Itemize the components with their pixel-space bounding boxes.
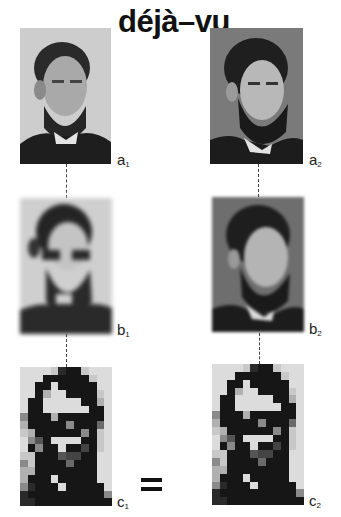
pixel-cell [296,372,304,380]
pixel-cell [289,403,297,411]
pixel-cell [281,466,289,474]
portrait-a1-image [20,28,111,164]
pixel-cell [227,427,235,435]
pixel-cell [220,435,228,443]
blurred-portrait-b1-image [20,198,112,334]
pixel-cell [20,413,28,421]
pixel-cell [281,388,289,396]
pixel-cell [43,367,51,375]
pixel-cell [243,466,251,474]
pixel-cell [81,437,89,445]
pixel-cell [20,491,28,499]
pixel-cell [51,367,59,375]
pixel-cell [66,375,74,383]
pixel-cell [258,442,266,450]
pixel-cell [66,491,74,499]
pixel-cell [220,380,228,388]
pixel-cell [296,364,304,372]
pixel-cell [212,364,220,372]
pixel-cell [273,497,281,505]
pixel-cell [104,437,112,445]
pixel-cell [250,458,258,466]
pixel-cell [104,375,112,383]
pixel-cell [281,395,289,403]
pixel-cell [97,467,105,475]
pixel-cell [20,498,28,506]
pixel-cell [20,467,28,475]
pixel-cell [243,442,251,450]
pixel-cell [89,382,97,390]
pixel-cell [212,395,220,403]
pixel-cell [235,482,243,490]
pixel-cell [227,435,235,443]
pixel-cell [227,458,235,466]
portrait-a2-image [210,28,303,164]
pixel-cell [89,375,97,383]
pixel-cell [212,466,220,474]
pixel-cell [35,460,43,468]
pixel-cell [227,364,235,372]
pixel-cell [35,367,43,375]
pixel-cell [97,406,105,414]
pixel-cell [104,475,112,483]
pixel-cell [20,437,28,445]
pixel-cell [43,475,51,483]
pixel-cell [74,452,82,460]
pixel-cell [281,489,289,497]
pixel-cell [28,491,36,499]
pixel-cell [20,475,28,483]
pixel-cell [227,403,235,411]
pixel-cell [258,474,266,482]
pixel-cell [58,498,66,506]
pixel-cell [266,427,274,435]
pixel-cell [43,444,51,452]
pixel-cell [74,437,82,445]
pixel-cell [35,382,43,390]
pixel-cell [289,419,297,427]
pixel-cell [250,380,258,388]
pixel-cell [281,403,289,411]
pixel-cell [20,398,28,406]
pixel-cell [104,390,112,398]
pixel-cell [35,498,43,506]
label-c1: c1 [117,494,129,514]
pixel-cell [220,466,228,474]
pixel-cell [35,452,43,460]
pixel-cell [43,452,51,460]
pixel-cell [235,380,243,388]
pixel-cell [289,411,297,419]
pixel-cell [66,382,74,390]
pixel-cell [97,444,105,452]
pixel-cell [74,483,82,491]
pixel-cell [35,491,43,499]
pixel-cell [74,460,82,468]
pixel-cell [97,375,105,383]
pixel-cell [250,419,258,427]
pixel-cell [266,450,274,458]
pixel-cell [104,498,112,506]
pixel-cell [243,458,251,466]
pixel-cell [266,435,274,443]
pixel-cell [74,467,82,475]
pixel-cell [220,388,228,396]
pixel-cell [243,380,251,388]
pixel-cell [220,442,228,450]
pixel-cell [281,435,289,443]
pixel-cell [81,421,89,429]
pixel-cell [296,497,304,505]
pixel-cell [97,498,105,506]
pixel-cell [227,466,235,474]
pixel-cell [35,375,43,383]
pixel-cell [235,489,243,497]
pixel-cell [58,460,66,468]
pixel-cell [243,411,251,419]
pixel-cell [227,482,235,490]
pixel-cell [296,427,304,435]
connector-b1-c1 [66,334,67,367]
pixel-cell [250,489,258,497]
pixel-cell [28,498,36,506]
equals-bar-bottom [141,487,162,491]
pixel-cell [74,413,82,421]
pixel-cell [235,450,243,458]
pixel-cell [258,419,266,427]
